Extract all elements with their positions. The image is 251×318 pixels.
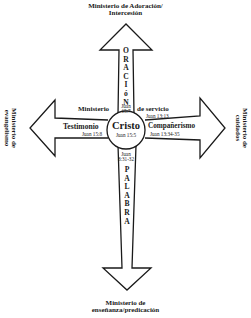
- oracion-ref-line2: 15:7: [116, 109, 136, 114]
- center-ref: Juan 15:5: [106, 133, 146, 138]
- letter: A: [122, 218, 132, 227]
- bottom-ministry-title: Ministerio de enseñanza/predicación: [0, 300, 251, 315]
- companerismo-ref: Juan 13:34-35: [150, 132, 180, 137]
- bottom-title-line2: enseñanza/predicación: [0, 307, 251, 314]
- oracion-ref: Juan 15:7: [116, 104, 136, 115]
- testimonio-ref: Juan 15:8: [82, 132, 102, 137]
- center-label: Cristo: [106, 120, 146, 131]
- left-ministry-title: Ministerio de evangelismo: [3, 108, 18, 148]
- oracion-vertical-text: O R A C I ó N: [121, 47, 131, 107]
- right-title-line2: cuidados: [234, 108, 241, 148]
- left-title-line2: evangelismo: [3, 108, 10, 148]
- palabra-ref-line2: 8:31-32: [114, 157, 138, 162]
- testimonio-label: Testimonio: [63, 123, 99, 131]
- right-title-line1: Ministerio de: [241, 108, 248, 148]
- top-title-line2: Intercesión: [0, 10, 251, 17]
- palabra-ref: Juan 8:31-32: [114, 152, 138, 163]
- companerismo-label: Compañerismo: [148, 123, 195, 131]
- top-ministry-title: Ministerio de Adoración/ Intercesión: [0, 3, 251, 18]
- left-title-line1: Ministerio de: [10, 108, 17, 148]
- servicio-ref: Juan 13:13: [146, 114, 169, 119]
- palabra-vertical-text: P A L A B R A: [122, 166, 132, 226]
- ministerio-caption: Ministerio: [78, 106, 109, 113]
- right-ministry-title: Ministerio de cuidados: [234, 108, 249, 148]
